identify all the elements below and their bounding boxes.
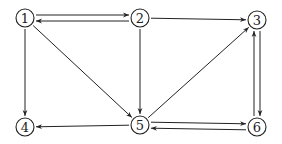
node-6: 6 <box>248 118 266 136</box>
node-5: 5 <box>131 116 149 134</box>
edge-5-to-6 <box>151 122 246 124</box>
node-4: 4 <box>16 118 34 136</box>
node-1: 1 <box>16 9 34 27</box>
edge-1-to-5 <box>33 26 132 118</box>
node-label: 1 <box>21 11 29 26</box>
edges <box>25 15 260 130</box>
directed-graph: 123456 <box>0 0 282 144</box>
edge-5-to-4 <box>36 125 129 127</box>
node-label: 3 <box>253 13 261 28</box>
node-label: 6 <box>253 120 261 135</box>
node-label: 4 <box>21 120 29 135</box>
node-2: 2 <box>131 9 149 27</box>
edge-5-to-3 <box>148 27 249 117</box>
node-3: 3 <box>248 11 266 29</box>
edge-6-to-5 <box>151 128 246 130</box>
nodes: 123456 <box>16 9 266 136</box>
node-label: 5 <box>136 118 144 133</box>
edge-2-to-3 <box>151 18 246 20</box>
node-label: 2 <box>136 11 144 26</box>
